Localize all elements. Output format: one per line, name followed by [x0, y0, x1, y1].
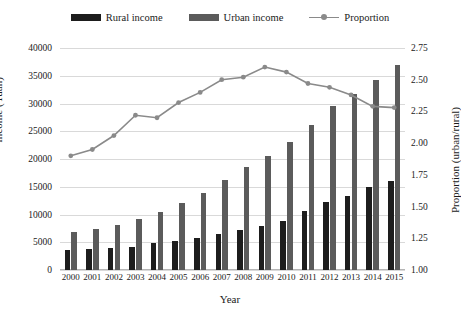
x-axis-tick-label: 2005 [170, 272, 188, 282]
x-axis-tick-label: 2012 [321, 272, 339, 282]
x-axis-tick-label: 2010 [277, 272, 295, 282]
x-axis-tick-label: 2008 [234, 272, 252, 282]
y-axis-left-tick-label: 20000 [8, 154, 52, 164]
proportion-data-point [284, 70, 289, 75]
y-axis-right-tick-label: 1.50 [411, 202, 428, 212]
x-axis-tick-label: 2013 [342, 272, 360, 282]
x-axis-tick-label: 2007 [213, 272, 231, 282]
proportion-line-series [60, 48, 405, 270]
proportion-data-point [392, 105, 397, 110]
gridline [60, 270, 405, 271]
x-axis-tick-label: 2009 [256, 272, 274, 282]
y-axis-left-tick-label: 15000 [8, 182, 52, 192]
y-axis-right-tick-label: 2.00 [411, 138, 428, 148]
x-axis-tick-label: 2002 [105, 272, 123, 282]
x-axis-tick-label: 2003 [126, 272, 144, 282]
y-axis-right-tick-label: 1.00 [411, 265, 428, 275]
x-axis-tick-label: 2015 [385, 272, 403, 282]
x-axis-tick-label: 2011 [299, 272, 317, 282]
proportion-line-path [71, 67, 394, 156]
legend-item-proportion: Proportion [309, 12, 389, 23]
y-axis-right-tick-label: 2.25 [411, 106, 428, 116]
proportion-data-point [327, 85, 332, 90]
y-axis-right-tick-label: 2.50 [411, 75, 428, 85]
y-axis-left-tick-label: 35000 [8, 71, 52, 81]
x-axis-tick-label: 2006 [191, 272, 209, 282]
proportion-data-point [349, 93, 354, 98]
proportion-data-point [68, 153, 73, 158]
y-axis-right-title: Proportion (urban/rural) [449, 107, 461, 213]
x-axis-tick-label: 2000 [62, 272, 80, 282]
y-axis-left-tick-label: 10000 [8, 210, 52, 220]
y-axis-left-tick-label: 25000 [8, 126, 52, 136]
chart-legend: Rural income Urban income Proportion [0, 9, 460, 25]
proportion-data-point [219, 77, 224, 82]
proportion-data-point [176, 100, 181, 105]
x-axis-tick-label: 2004 [148, 272, 166, 282]
legend-item-rural-income: Rural income [71, 12, 163, 23]
y-axis-left-title: Income (Yuan) [0, 77, 4, 143]
x-axis-title: Year [0, 293, 460, 305]
legend-label-urban-income: Urban income [224, 12, 284, 23]
rural-income-swatch-icon [71, 14, 101, 21]
proportion-data-point [370, 104, 375, 109]
y-axis-right-tick-label: 1.75 [411, 170, 428, 180]
legend-label-rural-income: Rural income [106, 12, 163, 23]
y-axis-left-tick-label: 40000 [8, 43, 52, 53]
legend-label-proportion: Proportion [344, 12, 389, 23]
y-axis-left-tick-label: 30000 [8, 99, 52, 109]
proportion-data-point [90, 147, 95, 152]
y-axis-right-tick-label: 1.25 [411, 233, 428, 243]
proportion-data-point [241, 75, 246, 80]
x-axis-tick-label: 2001 [83, 272, 101, 282]
proportion-data-point [112, 133, 117, 138]
proportion-data-point [262, 65, 267, 70]
x-axis-tick-label: 2014 [364, 272, 382, 282]
proportion-data-point [133, 113, 138, 118]
plot-area [60, 48, 405, 270]
y-axis-left-tick-label: 5000 [8, 237, 52, 247]
urban-income-swatch-icon [189, 14, 219, 21]
proportion-data-point [198, 90, 203, 95]
x-axis-ticks: 2000200120022003200420052006200720082009… [60, 272, 405, 286]
proportion-data-point [155, 115, 160, 120]
y-axis-left-tick-label: 0 [8, 265, 52, 275]
y-axis-right-tick-label: 2.75 [411, 43, 428, 53]
proportion-line-swatch-icon [309, 13, 339, 22]
proportion-data-point [306, 81, 311, 86]
legend-item-urban-income: Urban income [189, 12, 284, 23]
